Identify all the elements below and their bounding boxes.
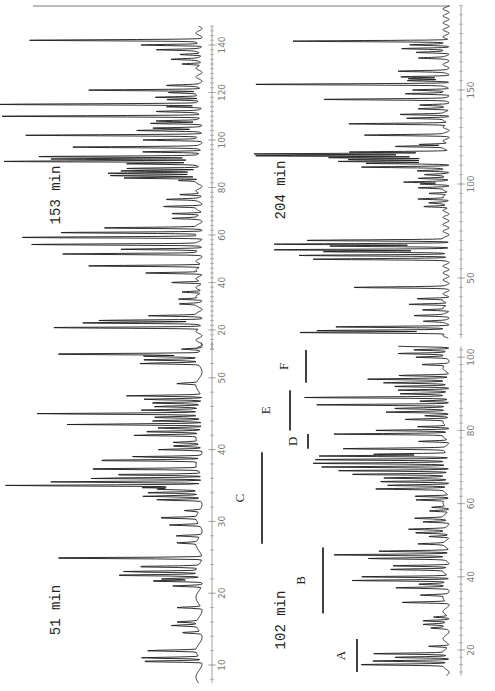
fraction-label-a: A [333, 650, 348, 660]
tick-label: 20 [217, 324, 227, 336]
chromatogram-panel-153min: 20406080100120140153 min [0, 26, 227, 349]
fraction-label-d: D [285, 437, 300, 446]
chromatogram-panel-102min: 20406080100102 minABCDEF [232, 346, 476, 675]
chromatogram-panel-204min: 50100150204 min [254, 5, 476, 338]
tick-label: 50 [217, 372, 227, 384]
chromatogram-trace [305, 346, 449, 675]
chromatogram-trace [6, 342, 203, 683]
tick-label: 50 [466, 272, 476, 284]
chromatogram-panel-51min: 102030405051 min [6, 342, 228, 683]
panel-title: 102 min [273, 591, 289, 650]
tick-label: 60 [217, 229, 227, 241]
tick-label: 120 [217, 84, 227, 101]
tick-label: 100 [217, 131, 227, 148]
tick-label: 80 [217, 182, 227, 194]
tick-label: 30 [217, 515, 227, 527]
panel-title: 51 min [48, 585, 64, 635]
chromatogram-figure: 20406080100120140153 min 50100150204 min… [0, 0, 495, 691]
tick-label: 80 [466, 424, 476, 436]
tick-label: 40 [217, 444, 227, 456]
panel-title: 204 min [273, 161, 289, 220]
tick-label: 140 [217, 36, 227, 53]
tick-label: 10 [217, 659, 227, 671]
fraction-label-f: F [276, 363, 291, 370]
tick-label: 20 [466, 644, 476, 656]
tick-label: 100 [466, 348, 476, 365]
tick-label: 100 [466, 175, 476, 192]
fraction-label-b: B [293, 576, 308, 585]
fraction-label-c: C [232, 494, 247, 503]
tick-label: 20 [217, 587, 227, 599]
tick-label: 40 [217, 277, 227, 289]
tick-label: 150 [466, 81, 476, 98]
tick-label: 40 [466, 571, 476, 583]
chromatogram-trace [0, 26, 202, 349]
tick-label: 60 [466, 498, 476, 510]
fraction-label-e: E [258, 406, 273, 414]
panel-title: 153 min [48, 166, 64, 225]
